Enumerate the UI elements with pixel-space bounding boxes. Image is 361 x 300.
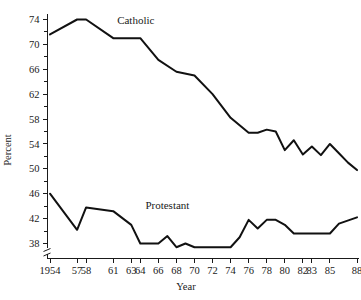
x-tick-label: 70 (189, 265, 200, 276)
line-chart: 3842465054586266707419545758616364666870… (0, 0, 361, 300)
ticks-group (43, 20, 358, 263)
x-tick-label: 61 (108, 265, 119, 276)
series-line-protestant (50, 194, 357, 248)
y-tick-label: 70 (29, 39, 40, 50)
x-tick-label: 66 (153, 265, 164, 276)
x-tick-label: 85 (325, 265, 336, 276)
y-axis-title: Percent (2, 134, 13, 166)
y-tick-label: 74 (29, 14, 40, 25)
series-label-catholic: Catholic (117, 14, 154, 26)
y-tick-label: 46 (29, 188, 40, 199)
axes-group (44, 14, 360, 258)
y-tick-label: 42 (29, 213, 40, 224)
x-tick-label: 80 (280, 265, 291, 276)
y-tick-label: 54 (29, 139, 40, 150)
axis-break-mark (44, 249, 51, 252)
x-tick-label: 76 (243, 265, 254, 276)
x-tick-label: 88 (352, 265, 361, 276)
y-tick-label: 38 (29, 238, 40, 249)
series-label-protestant: Protestant (145, 199, 189, 211)
x-tick-label: 72 (207, 265, 218, 276)
x-tick-label: 1954 (40, 265, 62, 276)
x-tick-label: 58 (81, 265, 92, 276)
y-tick-label: 58 (29, 114, 40, 125)
x-tick-label: 74 (225, 265, 236, 276)
x-tick-label: 83 (307, 265, 318, 276)
y-tick-label: 50 (29, 163, 40, 174)
series-group (50, 20, 357, 248)
y-tick-label: 66 (29, 64, 40, 75)
y-tick-label: 62 (29, 89, 40, 100)
chart-container: 3842465054586266707419545758616364666870… (0, 0, 361, 300)
tick-labels-group: 3842465054586266707419545758616364666870… (29, 14, 361, 275)
series-labels-group: CatholicProtestant (117, 14, 189, 210)
x-tick-label: 68 (171, 265, 182, 276)
x-tick-label: 78 (261, 265, 272, 276)
series-line-catholic (50, 20, 357, 171)
x-axis-title: Year (176, 281, 196, 292)
x-tick-label: 64 (135, 265, 146, 276)
